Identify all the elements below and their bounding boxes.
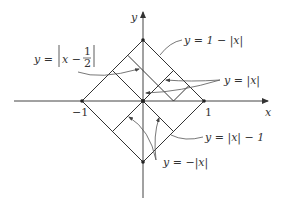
annotation-one-minus-abs-x: y = 1 − |x| <box>183 34 243 48</box>
leader-one-minus-abs-x <box>160 40 182 55</box>
annotation-abs-x: y = |x| <box>223 74 260 88</box>
annotation-neg-abs-x: y = −|x| <box>162 156 208 170</box>
point-left <box>80 99 84 103</box>
annotation-abs-x-minus-one: y = |x| − 1 <box>204 131 264 145</box>
leader-neg-abs-x-b <box>155 118 159 160</box>
point-origin <box>141 99 145 103</box>
leader-abs-x-a <box>166 80 220 81</box>
point-top <box>141 38 145 42</box>
point-bottom <box>141 160 145 164</box>
tick-label-one: 1 <box>205 106 212 119</box>
svg-text:2: 2 <box>84 57 91 70</box>
svg-text:x −: x − <box>62 53 81 66</box>
svg-text:y =: y = <box>33 53 53 66</box>
leader-abs-x-minus-one <box>171 135 203 139</box>
tick-label-neg-one: −1 <box>72 106 88 119</box>
annotation-abs-x-minus-half: y = x − 1 2 <box>33 45 94 70</box>
point-right <box>202 99 206 103</box>
y-axis-label: y <box>130 11 138 24</box>
x-axis-label: x <box>265 106 272 119</box>
diagram-figure: y x −1 1 y = x − 1 2 y = 1 − |x| y = |x|… <box>0 0 285 210</box>
curve-abs-x-minus-half <box>128 55 189 101</box>
